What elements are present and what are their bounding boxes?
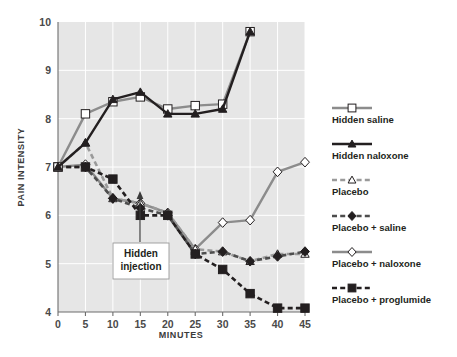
x-tick-label: 45 [299, 318, 311, 330]
figure-container: 051015202530354045 10987654 Hidden injec… [0, 0, 457, 357]
data-point-marker [218, 265, 226, 273]
y-tick-label: 6 [45, 209, 51, 221]
y-tick-label: 5 [45, 258, 51, 270]
data-point-marker [348, 248, 356, 257]
legend-label: Hidden saline [332, 114, 394, 125]
x-tick-label: 30 [217, 318, 229, 330]
data-point-marker [81, 110, 89, 118]
legend-item-hidden-naloxone[interactable]: Hidden naloxone [332, 140, 409, 161]
chart-legend: Hidden salineHidden naloxonePlaceboPlace… [332, 104, 431, 305]
data-point-marker [81, 163, 89, 171]
legend-label: Placebo + naloxone [332, 258, 421, 269]
data-point-marker [348, 212, 356, 221]
y-tick-label: 7 [45, 161, 51, 173]
legend-item-placebo-proglumide[interactable]: Placebo + proglumide [332, 284, 431, 305]
y-axis-tick-labels: 10987654 [39, 16, 51, 318]
legend-item-placebo-naloxone[interactable]: Placebo + naloxone [332, 248, 421, 269]
data-point-marker [191, 101, 199, 109]
legend-label: Placebo + proglumide [332, 294, 431, 305]
data-point-marker [246, 289, 254, 297]
x-axis-tick-marks [58, 312, 305, 316]
annotation-line-2: injection [120, 261, 161, 272]
data-point-marker [301, 304, 309, 312]
y-tick-label: 8 [45, 113, 51, 125]
legend-label: Placebo + saline [332, 222, 406, 233]
pain-intensity-line-chart: 051015202530354045 10987654 Hidden injec… [0, 0, 457, 357]
x-tick-label: 15 [134, 318, 146, 330]
annotation-line-1: Hidden [124, 248, 158, 259]
x-tick-label: 40 [272, 318, 284, 330]
y-tick-label: 10 [39, 16, 51, 28]
y-axis-title: PAIN INTENSITY [16, 128, 26, 207]
data-point-marker [164, 211, 172, 219]
data-point-marker [348, 104, 356, 112]
x-tick-label: 10 [107, 318, 119, 330]
legend-item-placebo[interactable]: Placebo [332, 176, 372, 197]
x-tick-label: 5 [83, 318, 89, 330]
legend-label: Hidden naloxone [332, 150, 409, 161]
data-point-marker [191, 250, 199, 258]
x-axis-tick-labels: 051015202530354045 [55, 318, 311, 330]
y-tick-label: 4 [45, 306, 51, 318]
x-tick-label: 35 [244, 318, 256, 330]
x-tick-label: 25 [189, 318, 201, 330]
legend-item-hidden-saline[interactable]: Hidden saline [332, 104, 394, 125]
x-axis-title: MINUTES [159, 330, 204, 340]
data-point-marker [273, 304, 281, 312]
x-tick-label: 0 [55, 318, 61, 330]
data-point-marker [348, 284, 356, 292]
y-tick-label: 9 [45, 64, 51, 76]
x-tick-label: 20 [162, 318, 174, 330]
legend-item-placebo-saline[interactable]: Placebo + saline [332, 212, 406, 233]
legend-label: Placebo [332, 186, 369, 197]
data-point-marker [109, 175, 117, 183]
